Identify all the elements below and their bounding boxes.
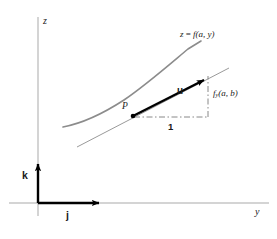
diagram-canvas — [0, 0, 277, 239]
curve-equation-equals: = — [184, 29, 194, 39]
point-p-label: P — [122, 102, 128, 112]
tangent-line — [77, 68, 229, 147]
j-vector-label: j — [66, 210, 69, 221]
partial-derivative-diagram: z y k j z = f(a, y) P u 1 fy(a, b) — [0, 0, 277, 239]
k-vector-label: k — [22, 170, 28, 181]
point-p-marker — [131, 114, 136, 119]
curve-equation-args: (a, y) — [196, 29, 215, 39]
y-axis-label: y — [255, 207, 259, 217]
run-length-label: 1 — [168, 122, 173, 132]
partial-derivative-label: fy(a, b) — [213, 89, 238, 98]
u-vector-label: u — [177, 86, 183, 96]
partial-derivative-args: (a, b) — [218, 88, 238, 98]
z-axis-label: z — [43, 16, 47, 26]
curve-equation-label: z = f(a, y) — [180, 30, 215, 39]
